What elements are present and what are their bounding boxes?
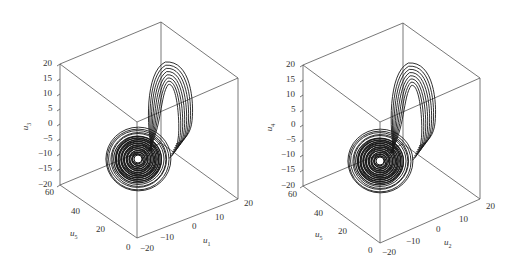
y-axis-label: u5: [70, 229, 78, 242]
z-tick: −10: [38, 149, 52, 158]
left-trajectory: [106, 62, 193, 191]
z-tick: −10: [281, 150, 295, 159]
left-chart-svg: [0, 0, 260, 274]
z-tick: 5: [291, 105, 296, 114]
x-tick: 10: [215, 213, 224, 222]
y-tick: 20: [338, 227, 347, 236]
z-tick: 15: [43, 74, 52, 83]
x-tick: 0: [192, 222, 197, 231]
right-z-ticks: [300, 65, 303, 188]
z-tick: 0: [291, 120, 296, 129]
y-tick: 60: [288, 190, 297, 199]
y-tick: 20: [96, 225, 105, 234]
x-tick: 10: [459, 215, 468, 224]
z-tick: 15: [286, 75, 295, 84]
right-chart-panel: 20 15 10 5 0 −5 −10 −15 −20 u4 60 40 20 …: [260, 0, 520, 274]
x-tick: 20: [486, 202, 495, 211]
x-tick: 20: [244, 199, 253, 208]
z-axis-label: u4: [265, 124, 278, 132]
z-tick: −5: [286, 135, 296, 144]
x-tick: 0: [436, 225, 441, 234]
x-tick: −10: [160, 233, 174, 242]
x-tick: −20: [140, 244, 154, 253]
y-tick: 60: [45, 188, 54, 197]
z-tick: −15: [38, 164, 52, 173]
left-chart-panel: 20 15 10 5 0 −5 −10 −15 −20 u3 60 40 20 …: [0, 0, 260, 274]
z-tick: 5: [48, 104, 53, 113]
z-tick: 10: [43, 89, 52, 98]
z-tick: −5: [43, 134, 53, 143]
y-tick: 40: [71, 207, 80, 216]
z-tick: 20: [43, 59, 52, 68]
left-z-ticks: [57, 64, 60, 187]
y-tick: 0: [126, 243, 131, 252]
z-axis-label: u3: [21, 123, 34, 131]
z-tick: 10: [286, 90, 295, 99]
z-tick: −15: [281, 165, 295, 174]
y-tick: 0: [368, 246, 373, 255]
z-tick: 20: [286, 60, 295, 69]
right-chart-svg: [260, 0, 521, 274]
y-axis-label: u5: [315, 230, 323, 243]
x-axis-label: u1: [203, 236, 211, 249]
z-tick: 0: [48, 119, 53, 128]
right-trajectory: [348, 63, 436, 193]
x-tick: −20: [382, 248, 396, 257]
x-axis-label: u2: [444, 238, 452, 251]
x-tick: −10: [406, 237, 420, 246]
y-tick: 40: [314, 209, 323, 218]
